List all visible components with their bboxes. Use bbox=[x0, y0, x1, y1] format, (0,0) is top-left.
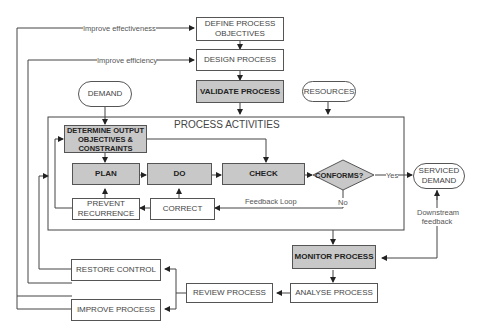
correct-box: CORRECT bbox=[150, 198, 215, 220]
check-box: CHECK bbox=[222, 163, 305, 185]
prevent-recurrence-box: PREVENT RECURRENCE bbox=[72, 198, 140, 220]
demand-terminal: DEMAND bbox=[78, 81, 132, 107]
monitor-process-box: MONITOR PROCESS bbox=[292, 245, 376, 269]
validate-process-box: VALIDATE PROCESS bbox=[196, 80, 284, 103]
feedback-loop-label: Feedback Loop bbox=[245, 197, 297, 206]
define-objectives-box: DEFINE PROCESS OBJECTIVES bbox=[196, 17, 284, 41]
no-label: No bbox=[338, 198, 348, 207]
downstream-feedback-label: Downstream feedback bbox=[417, 208, 457, 226]
serviced-demand-terminal: SERVICED DEMAND bbox=[413, 163, 465, 189]
design-process-box: DESIGN PROCESS bbox=[196, 49, 284, 71]
do-box: DO bbox=[147, 163, 212, 185]
review-process-box: REVIEW PROCESS bbox=[186, 283, 273, 303]
label-improve-effectiveness: Improve effectiveness bbox=[83, 24, 156, 33]
analyse-process-box: ANALYSE PROCESS bbox=[290, 283, 378, 303]
determine-output-box: DETERMINE OUTPUT OBJECTIVES & CONSTRAINT… bbox=[64, 125, 147, 153]
plan-box: PLAN bbox=[72, 163, 140, 185]
conforms-label: CONFORMS? bbox=[315, 171, 363, 180]
resources-terminal: RESOURCES bbox=[302, 81, 356, 102]
process-activities-title: PROCESS ACTIVITIES bbox=[174, 119, 280, 130]
label-improve-efficiency: Improve efficiency bbox=[97, 56, 157, 65]
yes-label: Yes bbox=[386, 171, 398, 180]
improve-process-box: IMPROVE PROCESS bbox=[71, 299, 161, 321]
restore-control-box: RESTORE CONTROL bbox=[71, 259, 161, 281]
